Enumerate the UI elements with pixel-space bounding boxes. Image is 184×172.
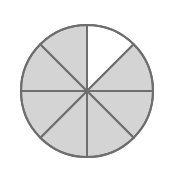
fraction-circle-diagram bbox=[0, 0, 184, 172]
fraction-circle bbox=[0, 0, 184, 172]
